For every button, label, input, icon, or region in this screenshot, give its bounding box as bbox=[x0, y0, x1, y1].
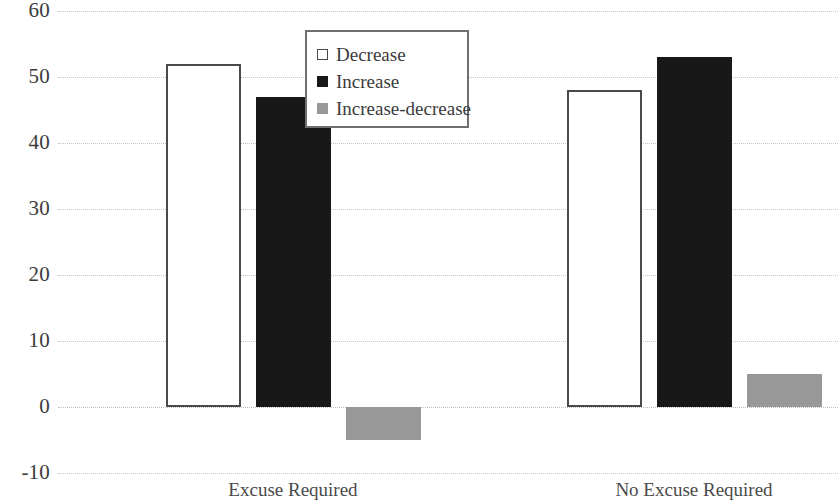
gridline-60 bbox=[58, 11, 838, 12]
bar-incdec bbox=[747, 374, 822, 407]
x-tick-label: No Excuse Required bbox=[544, 480, 838, 500]
legend-swatch-decrease-icon bbox=[317, 49, 328, 60]
bar-decrease bbox=[567, 90, 642, 407]
legend-swatch-increase-decrease-icon bbox=[317, 103, 328, 114]
bar-incdec bbox=[346, 407, 421, 440]
legend-swatch-increase-icon bbox=[317, 76, 328, 87]
legend-label-increase-decrease: Increase-decrease bbox=[336, 99, 471, 118]
gridline-0 bbox=[58, 407, 838, 408]
y-tick-label: -10 bbox=[4, 462, 50, 483]
y-tick-label: 40 bbox=[4, 132, 50, 153]
x-axis: Excuse RequiredNo Excuse Required bbox=[58, 478, 838, 502]
y-tick-label: 60 bbox=[4, 0, 50, 21]
bar-increase bbox=[256, 97, 331, 407]
legend-item-increase: Increase bbox=[317, 68, 467, 95]
legend-item-decrease: Decrease bbox=[317, 41, 467, 68]
legend-label-increase: Increase bbox=[336, 72, 399, 91]
bar-increase bbox=[657, 57, 732, 407]
bar-decrease bbox=[166, 64, 241, 407]
y-tick-label: 20 bbox=[4, 264, 50, 285]
y-tick-label: 50 bbox=[4, 66, 50, 87]
y-tick-label: 0 bbox=[4, 396, 50, 417]
y-tick-label: 30 bbox=[4, 198, 50, 219]
legend-label-decrease: Decrease bbox=[336, 45, 406, 64]
chart-legend: Decrease Increase Increase-decrease bbox=[305, 30, 469, 128]
legend-item-increase-decrease: Increase-decrease bbox=[317, 95, 467, 122]
y-tick-label: 10 bbox=[4, 330, 50, 351]
bar-chart: 6050403020100-10 Decrease Increase Incre… bbox=[0, 0, 838, 502]
y-axis: 6050403020100-10 bbox=[0, 0, 50, 502]
gridline--10 bbox=[58, 473, 838, 474]
x-tick-label: Excuse Required bbox=[143, 480, 443, 500]
